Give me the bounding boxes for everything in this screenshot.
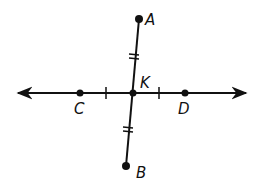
label-a: A	[144, 11, 155, 29]
point-a	[135, 15, 143, 23]
point-k	[130, 90, 137, 97]
point-c	[77, 90, 84, 97]
double-tick-ak	[129, 54, 139, 59]
label-b: B	[136, 164, 146, 182]
double-tick-kb	[123, 127, 133, 132]
label-c: C	[74, 100, 85, 118]
label-k: K	[140, 74, 151, 92]
geometry-diagram: A B C D K	[0, 0, 262, 192]
point-b	[122, 162, 130, 170]
label-d: D	[178, 100, 190, 118]
point-d	[182, 90, 189, 97]
